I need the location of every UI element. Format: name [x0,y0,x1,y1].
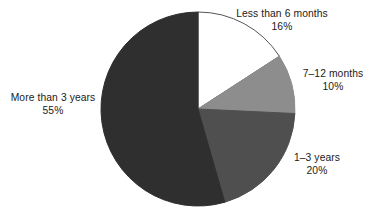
pie-label-name: More than 3 years [3,92,103,105]
pie-label-value: 20% [282,165,352,178]
pie-label-name: 7–12 months [297,68,369,81]
pie-label-value: 10% [297,81,369,94]
pie-label-name: Less than 6 months [227,8,337,21]
pie-label-value: 55% [3,105,103,118]
pie-label-less-than-6-months: Less than 6 months 16% [227,8,337,33]
pie-label-value: 16% [227,21,337,34]
pie-label-7-12-months: 7–12 months 10% [297,68,369,93]
pie-chart-figure: Less than 6 months 16% 7–12 months 10% 1… [0,0,369,213]
pie-label-1-3-years: 1–3 years 20% [282,152,352,177]
chart-area: Less than 6 months 16% 7–12 months 10% 1… [0,0,369,213]
pie-slice-group [101,12,295,206]
pie-label-name: 1–3 years [282,152,352,165]
pie-label-more-than-3-years: More than 3 years 55% [3,92,103,117]
